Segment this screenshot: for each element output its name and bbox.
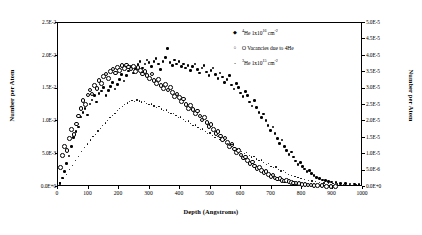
y-tick-label-right: 4.5E-5 [366, 35, 380, 41]
x-tick-mark [332, 186, 333, 189]
y-tick-mark-left [55, 120, 58, 121]
y-tick-mark-right [362, 88, 365, 89]
x-tick-mark [210, 186, 211, 189]
y-tick-mark-right [362, 71, 365, 72]
y-axis-title-right: Number per Atom [408, 61, 415, 131]
y-tick-label-right: 0.0E+0 [366, 183, 381, 189]
y-tick-mark-left [55, 22, 58, 23]
y-tick-label-right: 5.0E-5 [366, 19, 380, 25]
legend-item-label: 4He 1x1016 cm-2 [242, 30, 278, 36]
y-tick-mark-right [362, 153, 365, 154]
x-tick-mark [88, 186, 89, 189]
x-tick-label: 500 [195, 190, 225, 196]
x-tick-label: 0 [42, 190, 72, 196]
y-tick-mark-right [362, 120, 365, 121]
y-axis-title-left: Number per Atom [8, 61, 15, 131]
x-tick-mark [301, 186, 302, 189]
y-tick-mark-right [362, 55, 365, 56]
legend-item[interactable]: ◆4He 1x1016 cm-2 [228, 25, 346, 40]
y-tick-label-right: 2.5E-5 [366, 101, 380, 107]
y-tick-mark-left [55, 153, 58, 154]
y-tick-label-right: 5.0E-6 [366, 166, 380, 172]
y-tick-mark-left [55, 55, 58, 56]
x-tick-label: 300 [134, 190, 164, 196]
y-tick-label-right: 1.0E-5 [366, 150, 380, 156]
x-tick-label: 800 [286, 190, 316, 196]
y-tick-mark-right [362, 104, 365, 105]
legend-item[interactable]: ·3He 1x1015 cm-2 [228, 55, 346, 70]
y-tick-label-right: 1.5E-5 [366, 134, 380, 140]
x-tick-mark [149, 186, 150, 189]
x-tick-mark [179, 186, 180, 189]
x-tick-label: 900 [317, 190, 347, 196]
y-tick-mark-right [362, 170, 365, 171]
x-tick-mark [118, 186, 119, 189]
x-axis-title: Depth (Angstroms) [0, 208, 422, 215]
x-tick-mark [57, 186, 58, 189]
x-tick-mark [240, 186, 241, 189]
y-tick-label-right: 2.0E-5 [366, 117, 380, 123]
legend-marker-icon: · [228, 58, 242, 68]
legend-item-label: O Vacancies due to 4He [242, 45, 294, 51]
y-tick-label-right: 3.0E-5 [366, 84, 380, 90]
y-tick-mark-left [55, 88, 58, 89]
x-tick-label: 600 [225, 190, 255, 196]
x-tick-mark [271, 186, 272, 189]
y-tick-label-right: 4.0E-5 [366, 52, 380, 58]
x-tick-mark [362, 186, 363, 189]
chart-figure: 0.0E+05.0E-31.0E-21.5E-22.0E-22.5E-2 0.0… [0, 0, 422, 235]
y-tick-mark-right [362, 22, 365, 23]
legend-item[interactable]: ○O Vacancies due to 4He [228, 40, 346, 55]
chart-legend: ◆4He 1x1016 cm-2○O Vacancies due to 4He·… [228, 25, 346, 70]
x-tick-label: 700 [256, 190, 286, 196]
x-tick-label: 200 [103, 190, 133, 196]
y-tick-mark-right [362, 137, 365, 138]
y-tick-label-right: 3.5E-5 [366, 68, 380, 74]
x-tick-label: 400 [164, 190, 194, 196]
legend-item-label: 3He 1x1015 cm-2 [242, 60, 278, 66]
x-tick-label: 1000 [347, 190, 377, 196]
y-tick-mark-right [362, 38, 365, 39]
x-tick-label: 100 [73, 190, 103, 196]
legend-marker-icon: ○ [228, 45, 242, 50]
legend-marker-icon: ◆ [228, 30, 242, 35]
